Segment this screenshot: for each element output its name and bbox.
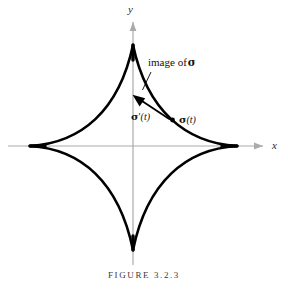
x-axis-label: x bbox=[272, 140, 277, 151]
image-of-sigma-label: image ofσ bbox=[148, 57, 196, 68]
astroid-figure-graphic bbox=[0, 0, 288, 289]
sigma-prime-t-label: σ′(t) bbox=[131, 112, 150, 122]
tangent-vector-arrowhead bbox=[133, 95, 146, 107]
astroid-quadrant-lower-right bbox=[133, 146, 237, 250]
astroid-quadrant-lower-left bbox=[30, 146, 133, 250]
image-of-sigma-text: image of bbox=[148, 56, 187, 68]
y-axis-arrowhead bbox=[130, 22, 137, 31]
figure-caption: FIGURE 3.2.3 bbox=[0, 270, 288, 280]
sigma-t-point-marker bbox=[170, 118, 175, 123]
astroid-quadrant-upper-left bbox=[30, 45, 133, 146]
sigma-prime-argument: (t) bbox=[141, 111, 150, 122]
sigma-t-label: σ(t) bbox=[179, 115, 196, 125]
sigma-symbol: σ bbox=[187, 56, 196, 68]
x-axis-arrowhead bbox=[254, 143, 263, 150]
y-axis-label: y bbox=[128, 4, 133, 15]
sigma-t-argument: (t) bbox=[186, 114, 195, 125]
figure-container: y x image ofσ σ′(t) σ(t) FIGURE 3.2.3 bbox=[0, 0, 288, 289]
